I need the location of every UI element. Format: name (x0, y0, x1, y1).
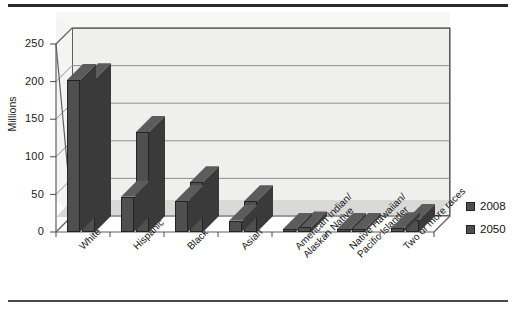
bar-2008-native-hawaiian--pacific-islander[interactable] (337, 213, 350, 232)
y-tick-200: 200 (4, 75, 44, 87)
bar-chart: 250 200 150 100 50 0 Millions WhiteHispa… (0, 12, 516, 302)
y-tick-250: 250 (4, 37, 44, 49)
legend-swatch-2008 (466, 202, 475, 211)
legend-label-2050: 2050 (480, 223, 506, 235)
bar-side-face (149, 116, 165, 232)
bar-2008-black[interactable] (175, 185, 188, 232)
bar-2008-white[interactable] (67, 64, 80, 232)
bar-front-face (352, 229, 365, 232)
bar-front-face (67, 80, 80, 232)
bar-front-face (298, 227, 311, 232)
legend-item-2050[interactable]: 2050 (466, 223, 506, 235)
bar-front-face (337, 229, 350, 232)
bar-front-face (391, 228, 404, 232)
bar-front-face (229, 221, 242, 232)
page-rule-top (8, 4, 508, 7)
bar-2008-hispanic[interactable] (121, 181, 134, 232)
legend-item-2008[interactable]: 2008 (466, 200, 506, 212)
bar-front-face (175, 201, 188, 232)
bar-side-face (95, 63, 111, 232)
y-tick-50: 50 (4, 188, 44, 200)
bar-2008-two-or-more-races[interactable] (391, 212, 404, 232)
y-axis-title: Millions (6, 96, 18, 131)
bar-2008-asian[interactable] (229, 205, 242, 232)
bar-2008-american-indian--alaskan-native[interactable] (283, 213, 296, 232)
bar-side-face (80, 64, 96, 232)
y-tick-0: 0 (4, 225, 44, 237)
legend-label-2008: 2008 (480, 200, 506, 212)
bar-front-face (121, 197, 134, 232)
legend-swatch-2050 (466, 225, 475, 234)
bar-front-face (283, 229, 296, 232)
figure-root: 250 200 150 100 50 0 Millions WhiteHispa… (0, 0, 516, 313)
y-tick-100: 100 (4, 150, 44, 162)
legend: 2008 2050 (466, 200, 506, 246)
